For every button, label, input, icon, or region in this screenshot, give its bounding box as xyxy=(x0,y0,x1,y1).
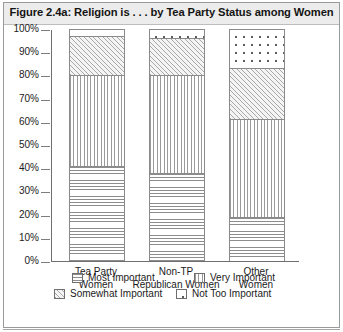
y-tick-mark xyxy=(41,192,50,193)
legend: Most ImportantVery ImportantSomewhat Imp… xyxy=(4,268,339,308)
y-tick-mark xyxy=(41,169,50,170)
y-tick-label-70%: 70% xyxy=(0,93,39,104)
y-tick-label-80%: 80% xyxy=(0,69,39,80)
plot-wrap: 0%10%20%30%40%50%60%70%80%90%100% Tea Pa… xyxy=(4,25,339,328)
legend-item[interactable]: Most Important xyxy=(72,272,155,283)
legend-swatch-dots xyxy=(176,289,187,299)
legend-swatch-diagonal-hatch xyxy=(54,289,65,299)
bar-segment[interactable] xyxy=(150,75,204,172)
y-tick-mark xyxy=(41,123,50,124)
y-tick-label-0%: 0% xyxy=(0,255,39,266)
y-tick-label-10%: 10% xyxy=(0,232,39,243)
legend-item[interactable]: Very Important xyxy=(194,272,275,283)
bar-column-other-women[interactable] xyxy=(229,29,285,261)
title-band: Figure 2.4a: Religion is . . . by Tea Pa… xyxy=(4,3,339,25)
y-tick-label-40%: 40% xyxy=(0,162,39,173)
legend-label: Most Important xyxy=(88,272,155,283)
y-tick-mark xyxy=(41,262,50,263)
legend-item[interactable]: Somewhat Important xyxy=(54,288,162,299)
legend-swatch-horizontal-lines xyxy=(72,273,83,283)
chart-title: Figure 2.4a: Religion is . . . by Tea Pa… xyxy=(4,6,339,18)
bar-segment[interactable] xyxy=(150,173,204,261)
y-tick-label-30%: 30% xyxy=(0,185,39,196)
plot-area xyxy=(51,30,299,262)
figure-container: Figure 2.4a: Religion is . . . by Tea Pa… xyxy=(0,0,343,332)
y-tick-mark xyxy=(41,30,50,31)
bar-segment[interactable] xyxy=(230,68,284,119)
legend-label: Very Important xyxy=(210,272,275,283)
bar-segment[interactable] xyxy=(230,217,284,261)
y-tick-mark xyxy=(41,53,50,54)
y-tick-label-100%: 100% xyxy=(0,23,39,34)
legend-label: Not Too Important xyxy=(192,288,271,299)
bar-segment[interactable] xyxy=(230,119,284,216)
bar-segment[interactable] xyxy=(70,29,124,36)
y-tick-mark xyxy=(41,146,50,147)
y-tick-mark xyxy=(41,100,50,101)
bar-segment[interactable] xyxy=(150,38,204,75)
legend-swatch-vertical-lines xyxy=(194,273,205,283)
bar-segment[interactable] xyxy=(70,166,124,261)
legend-label: Somewhat Important xyxy=(70,288,162,299)
bar-segment[interactable] xyxy=(150,29,204,38)
y-tick-mark xyxy=(41,239,50,240)
bar-segment[interactable] xyxy=(70,75,124,165)
bar-column-non-tp-republican-women[interactable] xyxy=(149,29,205,261)
y-tick-mark xyxy=(41,76,50,77)
bottom-rule xyxy=(3,329,340,330)
y-tick-label-90%: 90% xyxy=(0,46,39,57)
figure-frame: Figure 2.4a: Religion is . . . by Tea Pa… xyxy=(3,2,340,328)
bar-column-tea-party-women[interactable] xyxy=(69,29,125,261)
y-tick-label-50%: 50% xyxy=(0,139,39,150)
y-tick-label-20%: 20% xyxy=(0,209,39,220)
legend-item[interactable]: Not Too Important xyxy=(176,288,271,299)
bar-segment[interactable] xyxy=(230,29,284,68)
y-tick-label-60%: 60% xyxy=(0,116,39,127)
y-tick-mark xyxy=(41,216,50,217)
bar-segment[interactable] xyxy=(70,36,124,75)
